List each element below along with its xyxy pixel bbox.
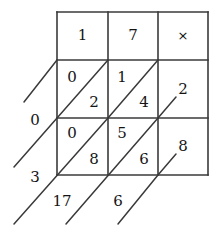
lattice-cell-r1c1-lower: 2	[89, 93, 99, 111]
multiplicand-digit-1: 1	[78, 26, 88, 44]
lattice-cell-r1c1-upper: 0	[67, 68, 77, 86]
lattice-cell-r2c3-value: 8	[178, 137, 188, 155]
lattice-multiplication-figure: 1 7 × 0 2 1 4 2 0 8 5 6 8 0 3 17 6	[0, 0, 218, 232]
multiplicand-digit-2: 7	[128, 26, 138, 44]
lattice-cell-r2c2-lower: 6	[139, 150, 149, 168]
lattice-cell-r2c1-lower: 8	[89, 150, 99, 168]
multiplication-operator-icon: ×	[178, 28, 189, 43]
diagonal-3	[108, 60, 158, 118]
result-digit-2: 6	[113, 192, 123, 210]
lattice-cell-r1c2-lower: 4	[139, 93, 149, 111]
diagonal-6	[158, 154, 176, 175]
lattice-cell-r2c2-upper: 5	[117, 124, 127, 142]
result-digit-1: 17	[52, 192, 71, 210]
diagonal-0	[24, 60, 57, 102]
diagonal-4	[66, 118, 158, 224]
lattice-cell-r1c2-upper: 1	[117, 68, 127, 86]
lattice-cell-r2c1-upper: 0	[67, 124, 77, 142]
multiplier-digit-2: 3	[30, 168, 40, 186]
multiplier-digit-1: 0	[30, 111, 40, 129]
diagonal-7	[118, 175, 158, 224]
diagonal-5	[158, 97, 176, 118]
lattice-cell-r1c3-value: 2	[178, 80, 188, 98]
lattice-diagram: 1 7 × 0 2 1 4 2 0 8 5 6 8 0 3 17 6	[0, 0, 218, 232]
